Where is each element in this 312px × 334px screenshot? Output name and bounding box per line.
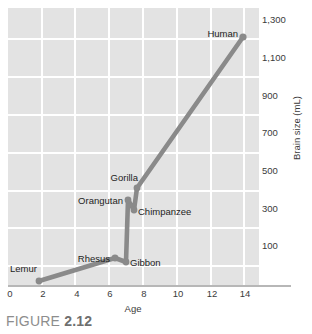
- y-axis-title: Brain size (mL): [291, 96, 302, 160]
- data-point-chimpanzee: [131, 207, 138, 214]
- point-label-rhesus: Rhesus: [78, 253, 110, 264]
- data-point-human: [239, 33, 246, 40]
- x-axis-tick-10: 10: [173, 288, 184, 299]
- point-label-orangutan: Orangutan: [78, 195, 123, 206]
- data-point-lemur: [36, 278, 43, 285]
- figure-container: Lemur Rhesus Gibbon Orangutan Chimpanzee…: [0, 0, 312, 334]
- point-label-lemur: Lemur: [10, 263, 37, 274]
- y-axis-tick-100: 100: [262, 240, 278, 251]
- figure-caption: FIGURE 2.12: [6, 313, 92, 329]
- y-axis-tick-1100: 1,100: [262, 52, 286, 63]
- x-axis-tick-12: 12: [207, 288, 218, 299]
- x-axis-tick-2: 2: [40, 288, 45, 299]
- y-axis-tick-300: 300: [262, 203, 278, 214]
- data-point-gorilla: [134, 185, 141, 192]
- y-axis-tick-1300: 1,300: [262, 14, 286, 25]
- data-point-orangutan: [125, 197, 132, 204]
- x-axis-tick-0: 0: [7, 288, 12, 299]
- point-label-chimpanzee: Chimpanzee: [138, 206, 191, 217]
- x-axis-tick-8: 8: [141, 288, 146, 299]
- figure-caption-prefix: FIGURE: [6, 313, 64, 329]
- y-axis-tick-500: 500: [262, 165, 278, 176]
- point-label-human: Human: [207, 28, 238, 39]
- x-axis-tick-4: 4: [74, 288, 79, 299]
- data-point-rhesus: [112, 255, 119, 262]
- y-axis-tick-900: 900: [262, 90, 278, 101]
- data-point-gibbon: [123, 259, 130, 266]
- series-line: [39, 37, 243, 281]
- x-axis-line: [8, 285, 291, 287]
- y-axis-tick-700: 700: [262, 127, 278, 138]
- x-axis-title: Age: [125, 303, 142, 314]
- point-label-gibbon: Gibbon: [130, 257, 161, 268]
- figure-caption-number: 2.12: [64, 313, 92, 329]
- point-label-gorilla: Gorilla: [111, 172, 138, 183]
- x-axis-tick-6: 6: [107, 288, 112, 299]
- x-axis-tick-14: 14: [240, 288, 251, 299]
